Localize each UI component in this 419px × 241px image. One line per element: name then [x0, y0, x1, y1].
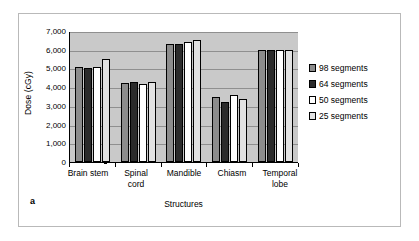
- y-tick-label: 3,000: [38, 103, 66, 111]
- y-tick-label: 5,000: [38, 65, 66, 73]
- legend-item: 50 segments: [309, 92, 401, 108]
- legend-swatch-icon: [309, 80, 316, 88]
- x-category-label-line: Mandible: [160, 168, 208, 179]
- y-tick-label: 2,000: [38, 122, 66, 130]
- bar: [193, 40, 201, 162]
- y-tick-label: 6,000: [38, 47, 66, 55]
- x-tick-mark: [298, 163, 299, 167]
- bar: [230, 95, 238, 162]
- x-tick-mark: [206, 163, 207, 167]
- y-axis-tick-labels: 7,0006,0005,0004,0003,0002,0001,0000: [38, 32, 66, 163]
- x-category-label-line: Brain stem: [64, 168, 112, 179]
- legend-swatch-icon: [309, 112, 316, 120]
- legend-item: 98 segments: [309, 60, 401, 76]
- x-axis-title: Structures: [69, 199, 298, 209]
- legend-label: 50 segments: [319, 95, 368, 105]
- bar-group: [70, 32, 116, 162]
- y-tick-label: 4,000: [38, 84, 66, 92]
- x-category-label-line: Chiasm: [208, 168, 256, 179]
- legend-label: 25 segments: [319, 111, 368, 121]
- x-category-label-line: cord: [112, 179, 160, 190]
- bar: [84, 68, 92, 163]
- x-category-label: Temporallobe: [256, 168, 304, 189]
- bar: [148, 82, 156, 162]
- x-tick-mark: [252, 163, 253, 167]
- x-tick-mark: [69, 163, 70, 167]
- legend-item: 25 segments: [309, 108, 401, 124]
- bar: [184, 42, 192, 162]
- y-axis-title: Dose (cGy): [23, 48, 33, 138]
- bar: [102, 59, 110, 162]
- y-tick-label: 1,000: [38, 140, 66, 148]
- x-axis-category-labels: Brain stemSpinalcordMandibleChiasmTempor…: [64, 168, 304, 189]
- bar: [166, 44, 174, 162]
- bar: [239, 99, 247, 162]
- x-category-label-line: lobe: [256, 179, 304, 190]
- x-category-label: Spinalcord: [112, 168, 160, 189]
- bar-groups: [70, 32, 298, 162]
- bar-group: [161, 32, 207, 162]
- bar: [212, 97, 220, 163]
- bar: [276, 50, 284, 162]
- legend-item: 64 segments: [309, 76, 401, 92]
- legend-swatch-icon: [309, 96, 316, 104]
- bar: [175, 44, 183, 162]
- bar-chart: Dose (cGy) 7,0006,0005,0004,0003,0002,00…: [0, 0, 419, 241]
- x-category-label-line: Spinal: [112, 168, 160, 179]
- x-category-label: Brain stem: [64, 168, 112, 189]
- figure-panel: Dose (cGy) 7,0006,0005,0004,0003,0002,00…: [0, 0, 419, 241]
- bar: [130, 82, 138, 162]
- bar: [221, 102, 229, 162]
- x-category-label-line: Temporal: [256, 168, 304, 179]
- x-category-label: Mandible: [160, 168, 208, 189]
- bar: [93, 67, 101, 162]
- bar: [121, 83, 129, 162]
- bar: [139, 84, 147, 162]
- x-tick-mark: [161, 163, 162, 167]
- chart-legend: 98 segments64 segments50 segments25 segm…: [309, 60, 401, 124]
- x-tick-mark: [115, 163, 116, 167]
- panel-caption: a: [30, 196, 35, 206]
- plot-area: [69, 32, 298, 163]
- bar-group: [207, 32, 253, 162]
- bar-group: [116, 32, 162, 162]
- legend-label: 98 segments: [319, 63, 368, 73]
- x-category-label: Chiasm: [208, 168, 256, 189]
- bar: [285, 50, 293, 162]
- y-tick-label: 7,000: [38, 28, 66, 36]
- bar: [267, 50, 275, 162]
- x-axis-ticks: [69, 163, 298, 167]
- bar: [75, 67, 83, 162]
- bar-group: [252, 32, 298, 162]
- bar: [258, 50, 266, 162]
- legend-label: 64 segments: [319, 79, 368, 89]
- legend-swatch-icon: [309, 64, 316, 72]
- y-tick-label: 0: [38, 159, 66, 167]
